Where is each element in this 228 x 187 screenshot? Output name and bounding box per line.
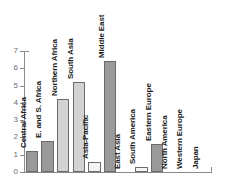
bar-group[interactable]: Northern Africa xyxy=(57,0,70,172)
y-axis-tick-label: 6 xyxy=(0,62,18,73)
bar-category-label: Japan xyxy=(191,146,200,169)
y-axis-tick-label: 3 xyxy=(0,114,18,125)
bar-group[interactable]: Japan xyxy=(198,0,211,172)
y-axis-tick-label: 5 xyxy=(0,80,18,91)
bar[interactable] xyxy=(41,141,54,172)
bar[interactable] xyxy=(26,151,39,172)
y-axis-tick-label: 2 xyxy=(0,131,18,142)
bar[interactable] xyxy=(135,167,148,172)
plot-area: 01234567 Central AfricaE. and S. AfricaN… xyxy=(0,0,228,187)
bar-chart: 01234567 Central AfricaE. and S. AfricaN… xyxy=(0,0,228,187)
bar-category-label: Eastern Europe xyxy=(144,84,153,142)
y-axis-tick-label: 4 xyxy=(0,97,18,108)
bar[interactable] xyxy=(88,162,101,172)
y-axis-tick-label: 1 xyxy=(0,149,18,160)
bar-category-label: Western Europe xyxy=(175,109,184,169)
bar-category-label: Northern Africa xyxy=(50,40,59,97)
bar-category-label: East Asia xyxy=(113,134,122,169)
y-axis-tick-label: 0 xyxy=(0,166,18,177)
bar-category-label: South Asia xyxy=(66,39,75,80)
bar-category-label: E. and S. Africa xyxy=(34,81,43,138)
bar[interactable] xyxy=(57,99,70,172)
bar-category-label: North America xyxy=(160,115,169,169)
bars-layer: Central AfricaE. and S. AfricaNorthern A… xyxy=(24,0,212,187)
bar-category-label: Central Africa xyxy=(19,98,28,149)
y-axis-tick-label: 7 xyxy=(0,45,18,56)
bar-category-label: South America xyxy=(128,109,137,164)
bar-category-label: Asia-Pacific xyxy=(81,114,90,158)
bar-category-label: Middle East xyxy=(97,15,106,58)
